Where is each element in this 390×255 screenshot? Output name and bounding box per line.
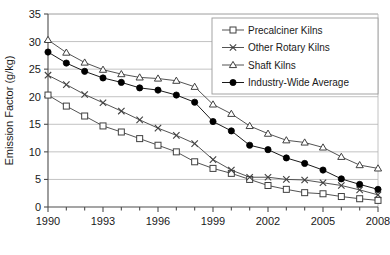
y-axis-tick-label: 25	[29, 63, 41, 75]
legend-label: Other Rotary Kilns	[248, 42, 330, 53]
marker-open-square	[320, 191, 326, 197]
marker-filled-circle	[375, 186, 381, 192]
marker-filled-circle	[155, 87, 161, 93]
y-axis: 05101520253035	[29, 8, 48, 213]
y-axis-tick-label: 5	[35, 173, 41, 185]
y-axis-tick-label: 0	[35, 201, 41, 213]
marker-open-square	[118, 129, 124, 135]
y-axis-tick-label: 35	[29, 8, 41, 20]
legend-label: Shaft Kilns	[248, 60, 296, 71]
marker-filled-circle	[192, 99, 198, 105]
marker-open-square	[173, 149, 179, 155]
marker-open-square	[100, 123, 106, 129]
marker-filled-circle	[82, 68, 88, 74]
x-axis-tick-label: 2002	[256, 215, 280, 227]
marker-filled-circle	[338, 176, 344, 182]
y-axis-title: Emission Factor (g/kg)	[3, 55, 15, 165]
marker-open-square	[45, 92, 51, 98]
marker-filled-circle	[228, 128, 234, 134]
series-line	[48, 95, 378, 200]
x-axis-tick-label: 2005	[311, 215, 335, 227]
marker-open-triangle	[44, 36, 51, 42]
legend: Precalciner KilnsOther Rotary KilnsShaft…	[212, 18, 378, 94]
chart-canvas: 0510152025303519901993199619992002200520…	[0, 0, 390, 255]
marker-open-square	[192, 159, 198, 165]
marker-filled-circle	[283, 155, 289, 161]
marker-open-square	[357, 196, 363, 202]
marker-filled-circle	[357, 181, 363, 187]
marker-open-square	[283, 186, 289, 192]
y-axis-tick-label: 10	[29, 146, 41, 158]
x-axis-tick-label: 2008	[366, 215, 390, 227]
marker-filled-circle	[100, 75, 106, 81]
marker-open-triangle	[264, 130, 271, 136]
marker-open-square	[375, 197, 381, 203]
marker-open-square	[210, 165, 216, 171]
y-axis-tick-label: 30	[29, 36, 41, 48]
emission-factor-line-chart: 0510152025303519901993199619992002200520…	[0, 0, 390, 255]
marker-filled-circle	[230, 79, 236, 85]
x-axis-tick-label: 1999	[201, 215, 225, 227]
series-1	[45, 92, 381, 203]
marker-open-square	[265, 182, 271, 188]
x-axis-tick-label: 1990	[36, 215, 60, 227]
marker-open-square	[230, 27, 236, 33]
marker-filled-circle	[137, 85, 143, 91]
marker-open-square	[302, 190, 308, 196]
y-axis-tick-label: 20	[29, 91, 41, 103]
marker-open-triangle	[228, 110, 235, 116]
x-axis: 1990199319961999200220052008	[36, 207, 390, 227]
marker-filled-circle	[320, 167, 326, 173]
marker-filled-circle	[247, 142, 253, 148]
marker-open-square	[155, 142, 161, 148]
marker-open-square	[338, 194, 344, 200]
x-axis-tick-label: 1993	[91, 215, 115, 227]
legend-label: Precalciner Kilns	[248, 25, 322, 36]
marker-filled-circle	[45, 49, 51, 55]
marker-filled-circle	[302, 160, 308, 166]
marker-filled-circle	[265, 147, 271, 153]
marker-open-triangle	[246, 122, 253, 128]
x-axis-tick-label: 1996	[146, 215, 170, 227]
marker-open-square	[82, 113, 88, 119]
legend-label: Industry-Wide Average	[248, 77, 349, 88]
marker-filled-circle	[63, 60, 69, 66]
marker-open-square	[63, 103, 69, 109]
marker-open-triangle	[81, 59, 88, 65]
marker-open-triangle	[338, 153, 345, 159]
marker-open-triangle	[63, 49, 70, 55]
marker-filled-circle	[173, 92, 179, 98]
marker-filled-circle	[118, 79, 124, 85]
marker-filled-circle	[210, 118, 216, 124]
marker-open-triangle	[356, 161, 363, 167]
y-axis-tick-label: 15	[29, 118, 41, 130]
marker-open-square	[137, 136, 143, 142]
